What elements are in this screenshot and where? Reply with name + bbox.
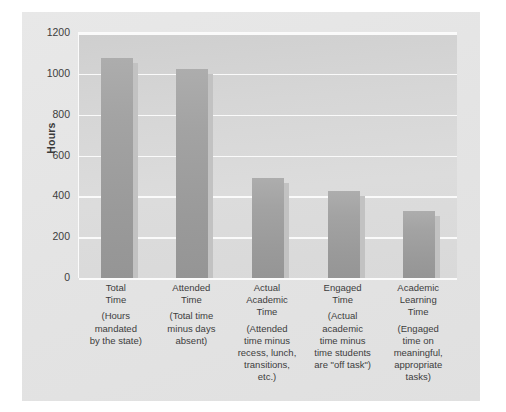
x-category-label: ActualAcademicTime(Attendedtime minusrec… [229, 282, 305, 384]
bar [101, 58, 133, 279]
bar [176, 69, 208, 278]
y-tick-label: 200 [22, 230, 70, 242]
y-tick-label: 1200 [22, 26, 70, 38]
gridline [79, 33, 457, 35]
bar [403, 211, 435, 278]
x-category-title: TotalTime [78, 282, 154, 306]
y-tick-label: 0 [22, 271, 70, 283]
x-category-description: (Hoursmandatedby the state) [78, 310, 154, 347]
x-category-title: AcademicLearningTime [380, 282, 456, 319]
x-category-label: AttendedTime(Total timeminus daysabsent) [154, 282, 230, 347]
bar [252, 178, 284, 278]
y-axis-title: Hours [45, 103, 57, 173]
x-category-title: ActualAcademicTime [229, 282, 305, 319]
x-category-label: TotalTime(Hoursmandatedby the state) [78, 282, 154, 347]
x-category-description: (Actualacademictime minustime studentsar… [305, 310, 381, 371]
x-category-description: (Engagedtime onmeaningful,appropriatetas… [380, 323, 456, 384]
x-category-title: EngagedTime [305, 282, 381, 306]
chart-figure: Hours 020040060080010001200 TotalTime(Ho… [22, 12, 480, 401]
x-category-label: AcademicLearningTime(Engagedtime onmeani… [380, 282, 456, 384]
x-category-description: (Attendedtime minusrecess, lunch,transit… [229, 323, 305, 384]
x-category-description: (Total timeminus daysabsent) [154, 310, 230, 347]
x-category-label: EngagedTime(Actualacademictime minustime… [305, 282, 381, 371]
plot-area [78, 32, 457, 278]
x-axis-line [79, 278, 457, 280]
y-tick-label: 1000 [22, 67, 70, 79]
x-category-title: AttendedTime [154, 282, 230, 306]
bar [328, 191, 360, 278]
y-tick-label: 400 [22, 189, 70, 201]
